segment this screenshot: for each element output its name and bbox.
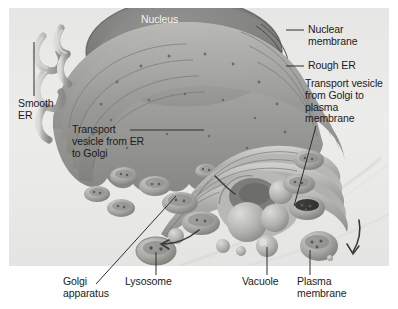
small-vesicle <box>236 246 246 256</box>
label-rough-er: Rough ER <box>308 60 356 72</box>
label-lysosome: Lysosome <box>125 276 172 288</box>
small-vesicle <box>216 239 230 253</box>
cell-diagram-figure: Nucleus Nuclear membrane Rough ER Transp… <box>0 0 398 309</box>
vacuole-body <box>256 235 278 257</box>
label-nuclear-membrane: Nuclear membrane <box>308 24 357 48</box>
label-nucleus: Nucleus <box>141 14 178 26</box>
label-transport-vesicle-er-to-golgi: Transport vesicle from ER to Golgi <box>72 124 144 159</box>
label-vacuole: Vacuole <box>242 276 278 288</box>
lysosome-body <box>136 237 176 265</box>
golgi-to-plasma-vesicle <box>289 196 325 220</box>
label-transport-vesicle-golgi-to-plasma: Transport vesicle from Golgi to plasma m… <box>305 78 383 125</box>
label-plasma-membrane: Plasma membrane <box>297 276 346 300</box>
label-smooth-er: Smooth ER <box>18 98 54 122</box>
label-golgi-apparatus: Golgi apparatus <box>63 276 109 300</box>
plasma-membrane-fusion-vesicle <box>300 231 338 261</box>
